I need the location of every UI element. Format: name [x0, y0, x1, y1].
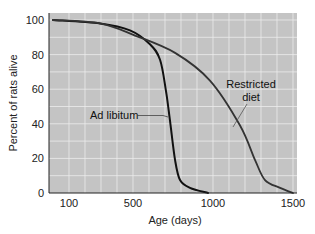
y-tick-label: 60: [32, 83, 44, 95]
survival-chart: 020406080100 10050010001500 Ad libitum R…: [0, 0, 315, 234]
plot-background: [49, 13, 297, 193]
x-axis-label: Age (days): [148, 214, 201, 226]
x-tick-label: 1000: [201, 197, 225, 209]
y-tick-label: 100: [26, 14, 44, 26]
annotation-restricted-line1: Restricted: [226, 78, 276, 90]
y-tick-labels: 020406080100: [26, 14, 44, 199]
y-tick-label: 20: [32, 152, 44, 164]
annotation-restricted-line2: diet: [242, 91, 260, 103]
annotation-ad-libitum: Ad libitum: [90, 109, 138, 121]
y-tick-label: 80: [32, 49, 44, 61]
y-tick-label: 40: [32, 118, 44, 130]
y-tick-label: 0: [38, 187, 44, 199]
x-tick-labels: 10050010001500: [60, 197, 305, 209]
x-tick-label: 100: [60, 197, 78, 209]
x-tick-label: 1500: [281, 197, 305, 209]
x-tick-label: 500: [124, 197, 142, 209]
y-axis-label: Percent of rats alive: [7, 54, 19, 151]
